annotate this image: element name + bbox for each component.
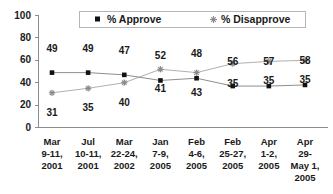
value-label-approve: 57 — [263, 56, 275, 67]
data-point-approve — [86, 70, 91, 75]
data-point-disapprove — [193, 70, 199, 76]
x-tick-label: Mar22-24,2002 — [111, 136, 138, 171]
x-tick-label: Apr29-May 1,2005 — [290, 136, 319, 183]
value-label-disapprove: 35 — [263, 75, 275, 86]
series-value-labels-disapprove: 3135404143353535 — [46, 74, 311, 117]
value-label-disapprove: 40 — [119, 97, 131, 108]
legend-item-disapprove-label: % Disapprove — [221, 13, 291, 25]
x-tick-label: Feb4-6,2005 — [186, 136, 208, 171]
y-tick-label: 100 — [14, 10, 31, 21]
y-tick-label: 40 — [20, 77, 32, 88]
y-axis-tick-labels: 100 80 60 40 20 0 — [14, 10, 31, 133]
value-label-approve: 56 — [227, 56, 239, 67]
x-tick-label: Apr1-2,2005 — [258, 136, 280, 171]
data-point-approve — [158, 78, 163, 83]
data-point-approve — [194, 76, 199, 81]
line-chart: 100 80 60 40 20 0 4949475248565758 31354… — [0, 0, 333, 194]
value-label-approve: 49 — [83, 43, 95, 54]
data-point-approve — [50, 70, 55, 75]
data-point-disapprove — [121, 80, 127, 86]
x-tick-label: Feb25-27,2005 — [219, 136, 246, 171]
y-tick-label: 0 — [25, 122, 31, 133]
y-axis-ticks — [35, 16, 39, 128]
value-label-disapprove: 35 — [83, 102, 95, 113]
data-point-approve — [122, 73, 127, 78]
square-marker-icon — [95, 17, 100, 22]
value-label-approve: 48 — [191, 48, 203, 59]
value-label-approve: 52 — [155, 50, 167, 61]
value-label-disapprove: 31 — [46, 107, 58, 118]
y-tick-label: 20 — [20, 99, 32, 110]
chart-legend: % Approve % Disapprove — [80, 12, 306, 28]
value-label-disapprove: 41 — [155, 83, 167, 94]
x-tick-label: Jan7-9,2005 — [150, 136, 172, 171]
data-point-disapprove — [157, 66, 163, 72]
chart-canvas: 100 80 60 40 20 0 4949475248565758 31354… — [0, 0, 333, 194]
x-axis-tick-labels: Mar9-11,2001Jul10-11,2001Mar22-24,2002Ja… — [41, 136, 319, 183]
series-value-labels-approve: 4949475248565758 — [46, 43, 311, 67]
y-tick-label: 60 — [20, 54, 32, 65]
legend-item-approve-label: % Approve — [107, 13, 162, 25]
value-label-approve: 47 — [119, 45, 131, 56]
value-label-disapprove: 35 — [299, 74, 311, 85]
data-point-disapprove — [85, 85, 91, 91]
x-tick-label: Mar9-11,2001 — [41, 136, 63, 171]
y-tick-label: 80 — [20, 32, 32, 43]
value-label-disapprove: 35 — [227, 78, 239, 89]
data-point-disapprove — [49, 90, 55, 96]
value-label-disapprove: 43 — [191, 87, 203, 98]
value-label-approve: 58 — [299, 55, 311, 66]
value-label-approve: 49 — [46, 43, 58, 54]
x-tick-label: Jul10-11,2001 — [75, 136, 101, 171]
